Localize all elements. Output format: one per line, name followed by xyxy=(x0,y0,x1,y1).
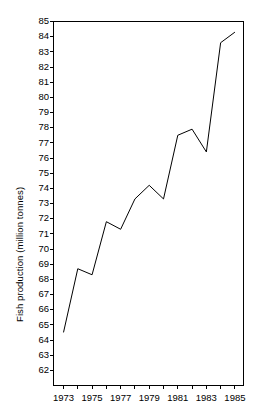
y-axis-tick-label: 65 xyxy=(22,319,49,330)
y-axis-tick-label: 69 xyxy=(22,258,49,269)
x-axis-tick-label: 1985 xyxy=(218,392,252,403)
y-axis-tick-label: 83 xyxy=(22,46,49,57)
y-axis-tick-label: 63 xyxy=(22,349,49,360)
y-axis-tick-label: 64 xyxy=(22,334,49,345)
y-axis-tick-label: 78 xyxy=(22,121,49,132)
y-axis-tick-label: 66 xyxy=(22,303,49,314)
y-axis-tick-label: 84 xyxy=(22,30,49,41)
y-axis-tick-label: 75 xyxy=(22,167,49,178)
y-axis-tick-label: 70 xyxy=(22,243,49,254)
chart-figure: Fish production (million tonnes) 6263646… xyxy=(0,0,260,413)
y-axis-tick-label: 82 xyxy=(22,61,49,72)
y-axis-tick-label: 85 xyxy=(22,15,49,26)
y-axis-tick-label: 68 xyxy=(22,273,49,284)
y-axis-tick-label: 72 xyxy=(22,212,49,223)
y-axis-tick-label: 62 xyxy=(22,364,49,375)
y-axis-tick-label: 80 xyxy=(22,91,49,102)
y-axis-tick-label: 73 xyxy=(22,197,49,208)
y-axis-tick-label: 79 xyxy=(22,106,49,117)
y-axis-tick-label: 76 xyxy=(22,152,49,163)
y-axis-tick-label: 67 xyxy=(22,288,49,299)
axes-layer xyxy=(50,22,243,389)
plot-frame xyxy=(54,22,244,386)
y-axis-tick-label: 81 xyxy=(22,76,49,87)
y-axis-tick-label: 77 xyxy=(22,137,49,148)
y-axis-tick-label: 74 xyxy=(22,182,49,193)
y-axis-tick-label: 71 xyxy=(22,228,49,239)
